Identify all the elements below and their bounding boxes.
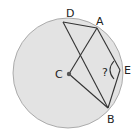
label-e: E: [124, 64, 131, 77]
center-dot: [67, 72, 71, 76]
circle-geometry-diagram: D A E C B ?: [0, 0, 137, 130]
unknown-angle-label: ?: [102, 66, 108, 79]
label-b: B: [107, 113, 115, 126]
label-a: A: [96, 15, 104, 28]
label-d: D: [66, 7, 74, 20]
label-c: C: [55, 68, 63, 81]
